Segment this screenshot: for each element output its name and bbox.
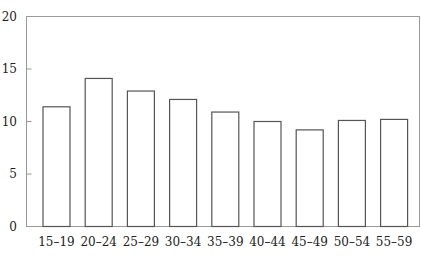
x-tick-label: 40–44 (249, 235, 286, 249)
x-tick-label: 15–19 (38, 235, 75, 249)
bar-15–19 (43, 107, 70, 227)
bar-50–54 (338, 120, 365, 226)
bar-35–39 (212, 112, 239, 226)
bars (43, 78, 408, 226)
y-tick-label: 20 (2, 10, 17, 24)
bar-20–24 (85, 78, 112, 226)
x-tick-label: 50–54 (334, 235, 371, 249)
x-tick-label: 35–39 (207, 235, 244, 249)
bar-40–44 (254, 122, 281, 227)
y-tick-label: 15 (2, 62, 17, 76)
x-tick-label: 30–34 (165, 235, 202, 249)
x-tick-label: 25–29 (123, 235, 160, 249)
bar-25–29 (127, 91, 154, 226)
y-axis: 05101520 (2, 10, 32, 234)
bar-45–49 (296, 130, 323, 227)
x-axis: 15–1920–2425–2930–3435–3940–4445–4950–54… (38, 235, 412, 249)
y-tick-label: 5 (9, 167, 17, 181)
bar-30–34 (170, 99, 197, 226)
bar-55–59 (381, 119, 408, 226)
y-tick-label: 10 (2, 115, 17, 129)
x-tick-label: 45–49 (291, 235, 328, 249)
x-tick-label: 55–59 (376, 235, 413, 249)
x-tick-label: 20–24 (80, 235, 117, 249)
bar-chart: 05101520 15–1920–2425–2930–3435–3940–444… (0, 0, 421, 258)
y-tick-label: 0 (9, 220, 17, 234)
